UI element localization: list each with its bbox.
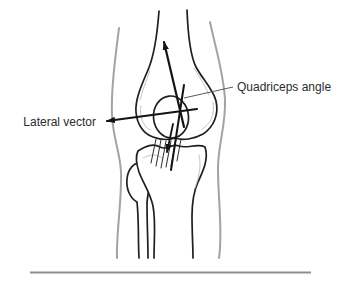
lateral-vector-label: Lateral vector <box>23 115 96 129</box>
right-leg-contour <box>210 22 225 258</box>
quadriceps-angle-label: Quadriceps angle <box>237 80 331 94</box>
left-leg-contour <box>112 28 121 258</box>
knee-q-angle-figure: Quadriceps angle Lateral vector <box>0 0 343 282</box>
figure-svg: Quadriceps angle Lateral vector <box>0 0 343 282</box>
